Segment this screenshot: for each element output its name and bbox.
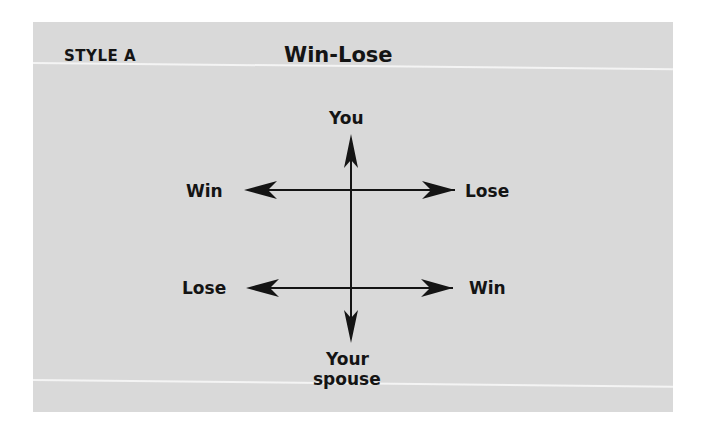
- label-upper-right: Lose: [465, 181, 509, 201]
- label-upper-left: Win: [186, 181, 223, 201]
- label-lower-right: Win: [469, 278, 506, 298]
- label-you: You: [329, 108, 364, 128]
- label-spouse: spouse: [313, 369, 381, 389]
- label-lower-left: Lose: [182, 278, 226, 298]
- label-your: Your: [326, 349, 369, 369]
